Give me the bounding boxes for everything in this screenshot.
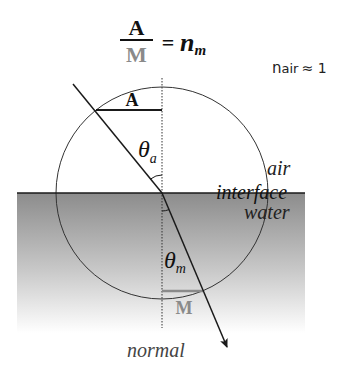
refraction-diagram: A M = nm nair≈ 1 A M θa θm air interface… [0,0,347,379]
label-theta-a: θa [138,136,157,166]
angle-arc-air [151,175,162,179]
equation-rhs: nm [180,28,206,58]
equation-numerator: A [129,15,145,40]
equation-equals: = [162,30,175,55]
note-n-air: nair≈ 1 [272,59,327,77]
label-a: A [126,90,139,110]
label-m: M [176,298,193,318]
label-normal: normal [127,339,185,361]
label-water: water [244,201,290,223]
label-air: air [267,157,291,179]
equation-denominator: M [126,42,147,67]
